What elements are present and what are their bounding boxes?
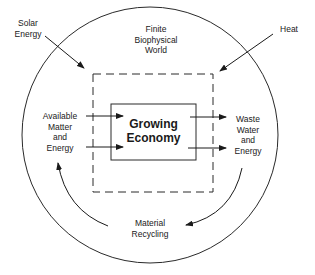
material-recycling-label: Material Recycling: [122, 218, 178, 239]
label-line: Waste: [226, 114, 270, 125]
available-matter-label: Available Matter and Energy: [36, 111, 84, 153]
label-line: Energy: [10, 29, 46, 40]
label-line: and: [226, 135, 270, 146]
label-line: Energy: [36, 143, 84, 154]
label-line: World: [126, 45, 186, 56]
label-line: Matter: [36, 122, 84, 133]
solar-energy-label: Solar Energy: [10, 18, 46, 39]
solar-energy-arrow: [45, 36, 84, 68]
label-line: Biophysical: [126, 35, 186, 46]
recycling-arrow-right: [186, 168, 242, 225]
label-line: Material: [122, 218, 178, 229]
growing-economy-label: Growing Economy: [111, 117, 196, 145]
finite-world-label: Finite Biophysical World: [126, 24, 186, 56]
label-line: Finite: [126, 24, 186, 35]
label-line: Energy: [226, 146, 270, 157]
label-line: Economy: [111, 131, 196, 145]
label-line: Recycling: [122, 229, 178, 240]
recycling-arrow-left: [58, 163, 108, 226]
label-line: Growing: [111, 117, 196, 131]
label-line: Heat: [274, 24, 304, 35]
label-line: and: [36, 132, 84, 143]
heat-label: Heat: [274, 24, 304, 35]
heat-arrow: [220, 34, 273, 71]
label-line: Water: [226, 125, 270, 136]
label-line: Available: [36, 111, 84, 122]
waste-label: Waste Water and Energy: [226, 114, 270, 156]
label-line: Solar: [10, 18, 46, 29]
